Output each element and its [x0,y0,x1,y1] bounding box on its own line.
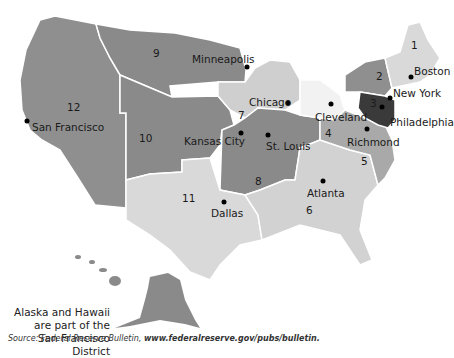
city-dot-minneapolis [245,65,250,70]
district-number-9: 9 [153,48,160,59]
city-label-atlanta: Atlanta [307,188,345,199]
district-10-region [120,75,234,180]
district-number-6: 6 [306,205,313,216]
city-label-philadelphia: Philadelphia [390,117,454,128]
city-label-stlouis: St. Louis [266,141,311,152]
city-label-richmond: Richmond [347,137,400,148]
district-number-5: 5 [361,156,368,167]
district-number-12: 12 [67,102,80,113]
city-label-newyork: New York [393,88,441,99]
city-dot-dallas [222,200,227,205]
city-dot-stlouis [266,133,271,138]
district-number-3: 3 [370,98,377,109]
city-dot-sanfrancisco [25,119,30,124]
source-citation: Source: Federal Reserve Bulletin, www.fe… [8,334,320,343]
city-dot-newyork [388,96,393,101]
district-number-4: 4 [325,128,332,139]
district-number-1: 1 [411,40,418,51]
note-line-2: are part of the [0,319,110,332]
city-label-sanfrancisco: San Francisco [32,122,104,133]
hawaii-shape [75,255,121,286]
note-line-1: Alaska and Hawaii [0,306,110,319]
district-number-10: 10 [139,133,152,144]
city-dot-cleveland [329,102,334,107]
district-number-2: 2 [376,71,383,82]
alaska-hawaii-note: Alaska and Hawaii are part of the San Fr… [0,306,110,358]
alaska-shape [115,273,200,328]
source-url: www.federalreserve.gov/pubs/bulletin. [144,334,320,343]
city-label-dallas: Dallas [211,208,243,219]
city-label-chicago: Chicago [249,97,291,108]
city-label-boston: Boston [414,66,450,77]
city-dot-philadelphia [380,105,385,110]
district-number-11: 11 [182,193,195,204]
city-label-minneapolis: Minneapolis [192,54,255,65]
city-label-kansascity: Kansas City [184,136,245,147]
source-prefix: Source: [8,334,41,343]
city-dot-atlanta [321,179,326,184]
city-dot-boston [409,75,414,80]
city-dot-richmond [365,127,370,132]
city-label-cleveland: Cleveland [315,112,367,123]
district-number-8: 8 [255,176,262,187]
district-number-7: 7 [238,110,245,121]
source-publication: Federal Reserve Bulletin, [41,334,141,343]
district-2-region [345,58,392,96]
